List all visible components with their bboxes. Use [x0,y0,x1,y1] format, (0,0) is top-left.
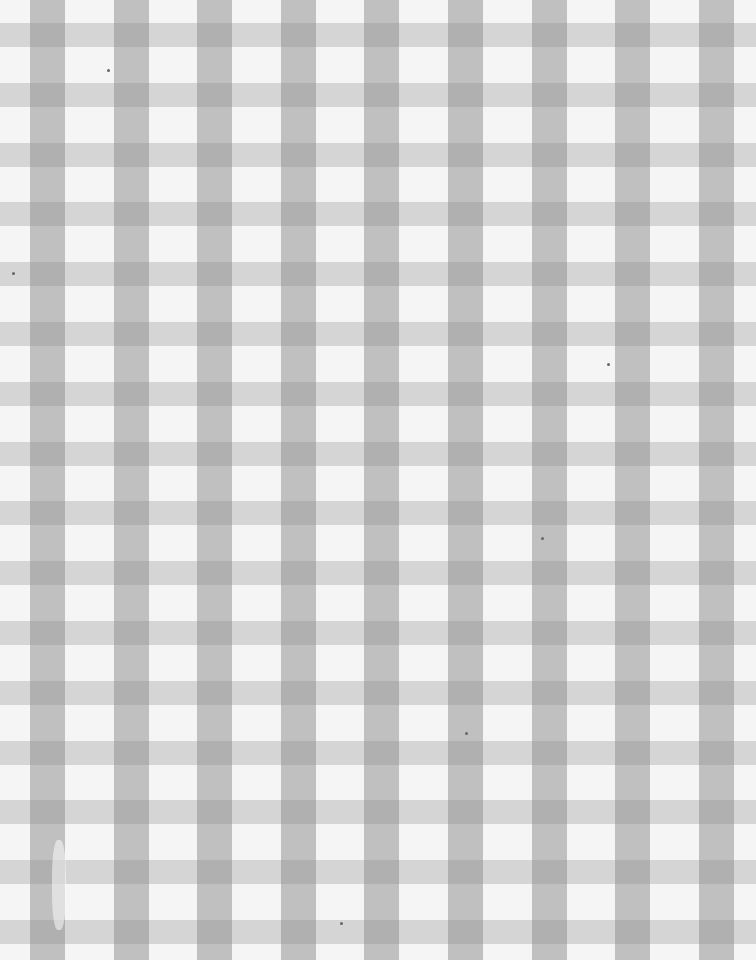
fabric-scuff [52,840,66,930]
horizontal-band [0,681,756,705]
horizontal-band [0,23,756,47]
horizontal-band [0,442,756,466]
gingham-fabric-image [0,0,756,960]
dust-speck [12,272,15,275]
horizontal-band [0,202,756,226]
dust-speck [340,922,343,925]
horizontal-band [0,561,756,585]
horizontal-band [0,860,756,884]
horizontal-band [0,920,756,944]
horizontal-band [0,741,756,765]
dust-speck [107,69,110,72]
dust-speck [607,363,610,366]
horizontal-band [0,621,756,645]
horizontal-band [0,262,756,286]
horizontal-band [0,83,756,107]
dust-speck [541,537,544,540]
horizontal-band [0,382,756,406]
dust-speck [465,732,468,735]
horizontal-band [0,322,756,346]
horizontal-band [0,143,756,167]
horizontal-band [0,501,756,525]
horizontal-band [0,800,756,824]
